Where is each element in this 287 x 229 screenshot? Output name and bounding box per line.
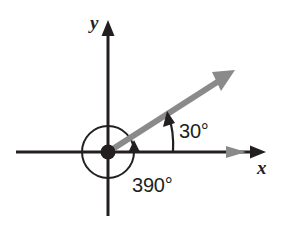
origin-point — [101, 145, 116, 160]
y-axis-label: y — [90, 13, 98, 32]
angle-label-390: 390° — [132, 175, 173, 195]
initial-side-arrowhead — [226, 146, 246, 158]
full-revolution-arrowhead — [128, 140, 140, 153]
x-axis-label: x — [257, 158, 267, 177]
angle-label-30: 30° — [179, 121, 209, 141]
y-axis-arrowhead — [102, 20, 115, 36]
angle-diagram-figure: y x 30° 390° — [0, 0, 287, 229]
